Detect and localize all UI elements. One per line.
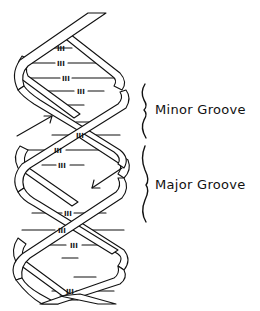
major-groove-brace — [143, 146, 148, 222]
svg-text:III: III — [57, 60, 65, 68]
svg-text:III: III — [54, 147, 62, 155]
svg-text:III: III — [57, 45, 65, 53]
svg-text:III: III — [58, 227, 66, 235]
major-groove-label: Major Groove — [155, 177, 246, 192]
dna-double-helix-diagram: III III III III III III III III III III … — [0, 0, 260, 311]
svg-text:III: III — [77, 88, 85, 96]
svg-text:III: III — [66, 288, 74, 296]
minor-groove-brace — [142, 84, 146, 138]
svg-text:III: III — [64, 210, 72, 218]
svg-text:III: III — [62, 75, 70, 83]
svg-text:III: III — [76, 132, 84, 140]
svg-text:III: III — [58, 162, 66, 170]
minor-groove-label: Minor Groove — [155, 102, 246, 117]
svg-text:III: III — [70, 242, 78, 250]
upward-strand-arrow — [17, 116, 52, 136]
